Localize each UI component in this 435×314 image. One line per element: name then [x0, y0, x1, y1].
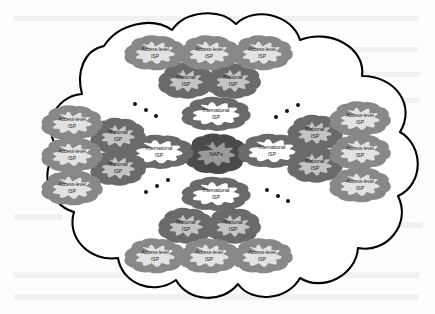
node-label-line2: ISP	[155, 152, 164, 158]
node-label-line2: ISP	[311, 165, 320, 171]
isp-cloud-node: Access-levelISP	[184, 241, 234, 270]
isp-cloud-node: Access-levelISP	[47, 173, 97, 202]
isp-cloud-node: Access-levelISP	[335, 170, 385, 199]
node-label-line1: International	[146, 145, 173, 151]
node-label-line2: ISP	[114, 136, 123, 142]
node-label-line1: National	[305, 158, 324, 164]
node-label-line2: ISP	[114, 168, 123, 174]
node-label-line2: ISP	[268, 151, 277, 157]
ellipsis-dot	[144, 190, 148, 194]
node-label-line1: National	[108, 161, 127, 167]
isp-cloud-node: InternationalISP	[187, 179, 245, 208]
isp-cloud-node: NationalISP	[164, 66, 208, 95]
node-label-line1: Access-level	[141, 46, 168, 52]
node-label-line1: National	[108, 129, 127, 135]
isp-cloud-node: NAPs	[191, 138, 241, 170]
node-label-line2: ISP	[68, 155, 77, 161]
node-label-line2: ISP	[258, 53, 267, 59]
node-label-line2: ISP	[212, 114, 221, 120]
isp-cloud-node: Access-levelISP	[130, 241, 180, 270]
node-label-line1: National	[176, 219, 195, 225]
node-label-line1: International	[203, 187, 230, 193]
isp-cloud-node: NationalISP	[211, 66, 255, 95]
ellipsis-dot	[274, 115, 278, 119]
node-label-line1: Access-level	[248, 46, 275, 52]
isp-cloud-node: Access-levelISP	[237, 38, 287, 67]
node-label-line2: ISP	[182, 226, 191, 232]
node-label-line2: ISP	[229, 81, 238, 87]
isp-cloud-node: Access-levelISP	[335, 104, 385, 133]
node-label-line1: National	[223, 219, 242, 225]
node-label-line1: Access-level	[195, 46, 222, 52]
node-label-line2: ISP	[258, 256, 267, 262]
node-label-line1: Access-level	[58, 116, 85, 122]
node-label-line1: National	[176, 74, 195, 80]
node-label-line2: ISP	[205, 256, 214, 262]
node-label-line2: ISP	[356, 152, 365, 158]
ellipsis-dot	[133, 102, 137, 106]
node-label-line2: ISP	[356, 185, 365, 191]
node-label-line2: ISP	[151, 53, 160, 59]
ellipsis-dot	[265, 188, 269, 192]
node-label-line1: Access-level	[58, 148, 85, 154]
isp-cloud-node: NationalISP	[211, 211, 255, 240]
node-label-line1: National	[305, 126, 324, 132]
ellipsis-dot	[155, 184, 159, 188]
node-label-line1: Access-level	[346, 112, 373, 118]
node-label-line1: Access-level	[346, 178, 373, 184]
node-label-line2: ISP	[212, 194, 221, 200]
node-label-line1: International	[259, 144, 286, 150]
node-label-line2: ISP	[151, 256, 160, 262]
ellipsis-dot	[144, 108, 148, 112]
ellipsis-dot	[296, 103, 300, 107]
isp-cloud-node: Access-levelISP	[237, 241, 287, 270]
node-label-line1: Access-level	[141, 249, 168, 255]
isp-cloud-node: NationalISP	[164, 211, 208, 240]
node-label-line1: International	[203, 107, 230, 113]
node-label-line1: National	[223, 74, 242, 80]
node-label-line1: Access-level	[195, 249, 222, 255]
isp-cloud-node: Access-levelISP	[47, 108, 97, 137]
node-label-line2: ISP	[229, 226, 238, 232]
isp-cloud-node: Access-levelISP	[130, 38, 180, 67]
node-label-line2: ISP	[311, 133, 320, 139]
node-label-line2: ISP	[182, 81, 191, 87]
node-label-line2: ISP	[356, 119, 365, 125]
ellipsis-dot	[166, 178, 170, 182]
internet-hierarchy-diagram: NAPsInternationalISPInternationalISPInte…	[0, 0, 435, 314]
node-label: NAPs	[209, 151, 223, 157]
node-label-line1: Access-level	[346, 145, 373, 151]
isp-cloud-node: NationalISP	[96, 153, 140, 182]
isp-cloud-node: NationalISP	[96, 121, 140, 150]
node-label-line2: ISP	[68, 123, 77, 129]
node-label-line1: Access-level	[248, 249, 275, 255]
ellipsis-dot	[276, 194, 280, 198]
isp-cloud-node: InternationalISP	[187, 99, 245, 128]
isp-cloud-node: Access-levelISP	[184, 38, 234, 67]
ellipsis-dot	[286, 199, 290, 203]
node-label-line1: Access-level	[58, 181, 85, 187]
node-label-line2: ISP	[68, 188, 77, 194]
ellipsis-dot	[285, 109, 289, 113]
isp-cloud-node: Access-levelISP	[47, 140, 97, 169]
node-label-line2: ISP	[205, 53, 214, 59]
ellipsis-dot	[154, 114, 158, 118]
isp-cloud-node: Access-levelISP	[335, 137, 385, 166]
